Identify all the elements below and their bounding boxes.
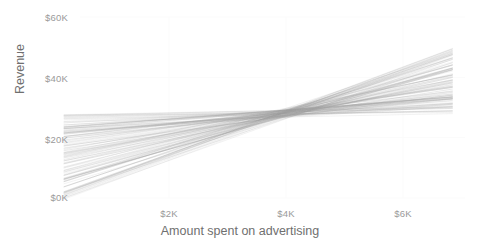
x-tick-label: $4K (261, 208, 311, 219)
y-tick-label: $20K (0, 134, 68, 145)
x-tick-label: $2K (144, 208, 194, 219)
chart-container: $60K$40K$20K$0K $2K$4K$6K Revenue Amount… (0, 0, 480, 252)
y-tick-label: $40K (0, 73, 68, 84)
x-tick-label: $6K (378, 208, 428, 219)
x-axis-title: Amount spent on advertising (0, 224, 480, 238)
y-tick-label: $0K (0, 192, 68, 203)
regression-line (64, 77, 453, 157)
y-tick-label: $60K (0, 12, 68, 23)
regression-line (64, 71, 453, 167)
regression-line (64, 53, 453, 198)
regression-lines-group (64, 48, 453, 199)
y-axis-title: Revenue (13, 33, 27, 105)
